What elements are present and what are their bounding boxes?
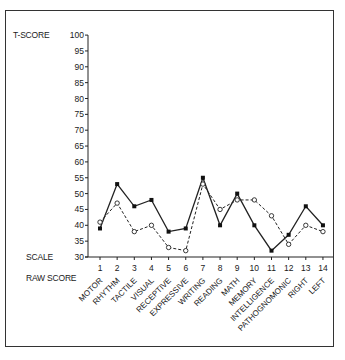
- data-point-square: [149, 198, 153, 202]
- data-point-square: [218, 223, 222, 227]
- y-tick-label: 45: [75, 204, 85, 214]
- data-point-circle: [132, 229, 136, 233]
- dashed-series-line: [100, 184, 323, 251]
- x-tick-label: 14: [318, 263, 328, 273]
- y-tick-label: 100: [70, 30, 84, 40]
- x-tick-label: 5: [166, 263, 171, 273]
- data-point-square: [270, 249, 274, 253]
- category-label: LEFT: [307, 276, 327, 296]
- x-tick-label: 6: [183, 263, 188, 273]
- x-tick-label: 10: [250, 263, 260, 273]
- data-point-circle: [201, 182, 205, 186]
- x-tick-label: 1: [98, 263, 103, 273]
- y-tick-label: 80: [75, 94, 85, 104]
- data-point-circle: [166, 245, 170, 249]
- y-tick-label: 85: [75, 78, 85, 88]
- data-point-square: [201, 176, 205, 180]
- data-point-square: [132, 204, 136, 208]
- data-point-square: [235, 192, 239, 196]
- data-point-circle: [218, 207, 222, 211]
- y-tick-label: 40: [75, 220, 85, 230]
- x-tick-label: 2: [115, 263, 120, 273]
- solid-series-line: [100, 178, 323, 251]
- data-point-square: [287, 233, 291, 237]
- line-chart: 3035404550556065707580859095100123456789…: [0, 0, 345, 360]
- data-point-square: [167, 230, 171, 234]
- data-point-square: [252, 223, 256, 227]
- x-tick-label: 12: [284, 263, 294, 273]
- data-point-square: [321, 223, 325, 227]
- data-point-circle: [304, 223, 308, 227]
- y-tick-label: 65: [75, 141, 85, 151]
- y-tick-label: 55: [75, 173, 85, 183]
- data-point-circle: [184, 248, 188, 252]
- x-tick-label: 8: [218, 263, 223, 273]
- y-tick-label: 60: [75, 157, 85, 167]
- data-point-circle: [235, 198, 239, 202]
- data-point-circle: [115, 201, 119, 205]
- data-point-square: [115, 182, 119, 186]
- data-point-square: [304, 204, 308, 208]
- data-point-square: [184, 226, 188, 230]
- y-tick-label: 75: [75, 109, 85, 119]
- data-point-circle: [149, 223, 153, 227]
- data-point-square: [98, 226, 102, 230]
- x-tick-label: 3: [132, 263, 137, 273]
- x-tick-label: 11: [267, 263, 276, 273]
- x-tick-label: 13: [301, 263, 311, 273]
- data-point-circle: [252, 198, 256, 202]
- data-point-circle: [321, 229, 325, 233]
- data-point-circle: [98, 220, 102, 224]
- x-tick-label: 9: [235, 263, 240, 273]
- y-tick-label: 35: [75, 236, 85, 246]
- y-tick-label: 30: [75, 252, 85, 262]
- y-tick-label: 70: [75, 125, 85, 135]
- data-point-circle: [269, 214, 273, 218]
- x-tick-label: 7: [201, 263, 206, 273]
- x-tick-label: 4: [149, 263, 154, 273]
- data-point-circle: [286, 242, 290, 246]
- y-tick-label: 95: [75, 46, 85, 56]
- y-tick-label: 90: [75, 62, 85, 72]
- y-tick-label: 50: [75, 189, 85, 199]
